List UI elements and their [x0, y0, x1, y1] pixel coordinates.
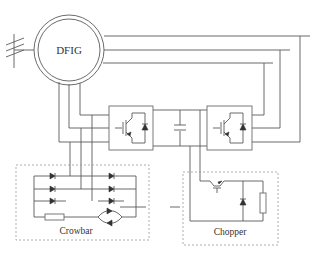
dc-link [153, 110, 207, 221]
dfig-machine: DFIG [34, 15, 104, 85]
chopper-circuit: Chopper [183, 172, 278, 245]
grid-side-converter [207, 106, 252, 150]
rotor-lines [59, 82, 109, 201]
dfig-circuit-diagram: DFIG [0, 0, 313, 255]
crowbar-label: Crowbar [59, 226, 93, 236]
crowbar-circuit: Crowbar [16, 165, 149, 240]
chopper-label: Chopper [214, 227, 248, 237]
rotor-side-converter [109, 106, 153, 150]
grid-connection [6, 34, 34, 68]
dfig-label: DFIG [56, 44, 82, 56]
